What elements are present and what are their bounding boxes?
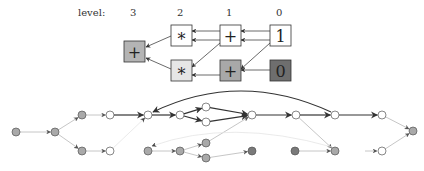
graph-node-Q	[176, 147, 184, 155]
op-box-one0: 1	[270, 25, 291, 46]
graph-edge-L-V	[299, 118, 332, 148]
graph-node-N	[378, 111, 386, 119]
graph-edge-H-J	[184, 116, 202, 121]
graph-edge-B-E	[58, 134, 78, 148]
graph-node-E	[78, 147, 86, 155]
level-header-row: level: 3 2 1 0	[78, 7, 282, 18]
graph-edge-W-O	[385, 133, 409, 148]
graph-node-J	[202, 118, 210, 126]
graph-node-U	[291, 147, 299, 155]
graph-node-I	[202, 103, 210, 111]
graph-node-G	[144, 111, 152, 119]
expression-tree-edges	[146, 31, 270, 75]
graph-node-M	[331, 111, 339, 119]
graph-edge-Q-R	[184, 144, 202, 150]
op-box-zero0: 0	[270, 60, 291, 81]
graph-node-H	[176, 111, 184, 119]
op-box-plus1bot: +	[220, 60, 241, 81]
graph-node-S	[202, 154, 210, 162]
box-edge-arrow	[146, 36, 171, 47]
graph-node-O	[409, 127, 417, 135]
graph-curved-edge-M-G	[153, 91, 331, 112]
graph-edge-B-C	[58, 117, 78, 129]
graph-node-L	[292, 111, 300, 119]
graph-edge-J-K	[210, 116, 248, 122]
level-label: level:	[78, 7, 105, 18]
level-1-label: 1	[226, 7, 232, 18]
op-box-plus3: +	[124, 41, 145, 62]
op-box-star2top: *	[171, 25, 192, 49]
graph-node-B	[51, 128, 59, 136]
graph-node-V	[331, 147, 339, 155]
op-box-star2bot: *	[171, 60, 192, 84]
dependency-graph-nodes	[12, 103, 417, 162]
graph-curved-edge-V-P	[152, 132, 332, 147]
box-edge-arrow	[192, 43, 220, 67]
diagram-canvas: level: 3 2 1 0 +**++10	[0, 0, 424, 171]
graph-edge-Q-S	[184, 152, 202, 157]
graph-node-T	[248, 147, 256, 155]
graph-node-F	[106, 147, 114, 155]
dependency-graph-edges	[20, 91, 409, 157]
graph-edge-I-K	[210, 108, 248, 115]
box-edge-arrow	[146, 58, 171, 69]
op-box-symbol: *	[178, 65, 186, 84]
op-box-symbol: +	[224, 62, 237, 81]
level-0-label: 0	[276, 7, 282, 18]
op-box-symbol: +	[224, 27, 237, 46]
graph-node-C	[78, 111, 86, 119]
level-3-label: 3	[130, 7, 136, 18]
graph-node-D	[106, 111, 114, 119]
op-box-plus1top: +	[220, 25, 241, 46]
graph-edge-H-I	[184, 108, 202, 114]
graph-node-P	[144, 147, 152, 155]
graph-edge-F-G	[113, 118, 145, 148]
graph-node-K	[248, 111, 256, 119]
graph-node-W	[378, 147, 386, 155]
graph-node-R	[202, 139, 210, 147]
graph-edge-N-O	[386, 117, 409, 129]
op-box-symbol: 1	[275, 27, 285, 46]
graph-node-A	[12, 128, 20, 136]
graph-edge-S-T	[210, 152, 248, 158]
op-box-symbol: +	[128, 43, 141, 62]
level-2-label: 2	[177, 7, 183, 18]
op-box-symbol: 0	[275, 62, 285, 81]
box-edge-arrow	[241, 43, 270, 69]
op-box-symbol: *	[178, 30, 186, 49]
